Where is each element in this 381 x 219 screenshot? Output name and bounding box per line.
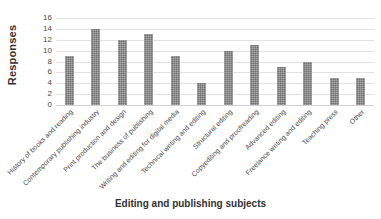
plot-area: 1614121086420 (56, 18, 374, 105)
bar-slot (295, 18, 322, 105)
category-label-slot: Other (348, 106, 375, 194)
bar-slot (242, 18, 269, 105)
y-axis-tick-label: 2 (48, 90, 52, 98)
category-label-slot: Freelance writing and editing (295, 106, 322, 194)
bar (144, 34, 153, 105)
bar-chart: Responses 1614121086420 History of books… (0, 0, 381, 219)
x-axis-category-label: Other (348, 108, 365, 125)
bar (91, 29, 100, 105)
y-axis-tick-label: 6 (48, 68, 52, 76)
bar (224, 51, 233, 105)
y-axis-tick-label: 8 (48, 58, 52, 66)
x-axis-title: Editing and publishing subjects (0, 198, 381, 209)
bar-slot (215, 18, 242, 105)
category-label-slot: Teaching press (321, 106, 348, 194)
bar (118, 40, 127, 105)
bar-slot (109, 18, 136, 105)
bar-slot (321, 18, 348, 105)
y-axis-tick-label: 10 (43, 47, 52, 55)
bar (356, 78, 365, 105)
bar (197, 83, 206, 105)
x-axis-category-labels: History of books and readingContemporary… (56, 106, 374, 194)
bar (250, 45, 259, 105)
bar (171, 56, 180, 105)
bar-slot (268, 18, 295, 105)
bar (65, 56, 74, 105)
bar-slot (162, 18, 189, 105)
y-axis-tick-label: 16 (43, 14, 52, 22)
y-axis-tick-label: 14 (43, 25, 52, 33)
bar-slot (83, 18, 110, 105)
bar (330, 78, 339, 105)
bar-series (56, 18, 374, 105)
bar (277, 67, 286, 105)
bar-slot (56, 18, 83, 105)
y-axis-tick-label: 12 (43, 36, 52, 44)
y-axis-title-text: Responses (6, 25, 18, 86)
bar-slot (348, 18, 375, 105)
bar (303, 62, 312, 106)
y-axis-tick-label: 0 (48, 101, 52, 109)
bar-slot (189, 18, 216, 105)
y-axis-tick-label: 4 (48, 79, 52, 87)
y-axis-title: Responses (0, 0, 24, 110)
bar-slot (136, 18, 163, 105)
